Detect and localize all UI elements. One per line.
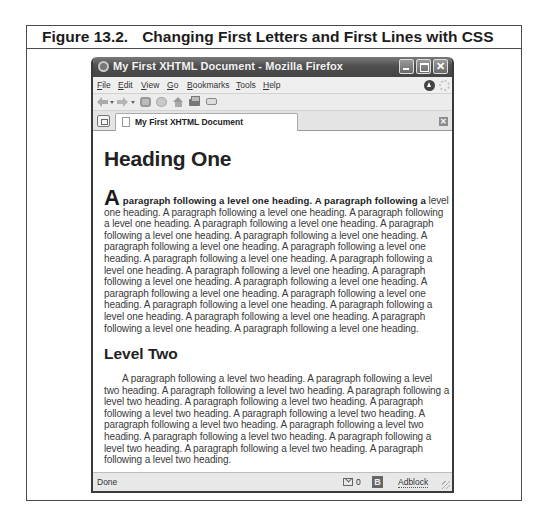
stop-icon[interactable]: [156, 97, 167, 107]
figure-number: Figure 13.2.: [42, 28, 128, 45]
title-bar[interactable]: My First XHTML Document - Mozilla Firefo…: [91, 57, 454, 77]
forward-icon[interactable]: [117, 97, 128, 107]
status-text: Done: [97, 477, 117, 487]
paragraph-body: level one heading. A paragraph following…: [104, 195, 449, 334]
minimize-button[interactable]: [399, 59, 414, 74]
menu-help[interactable]: Help: [263, 80, 280, 90]
firefox-icon: [98, 61, 109, 72]
addon-icon[interactable]: [424, 80, 435, 91]
extension-badge[interactable]: B: [372, 476, 383, 488]
close-button[interactable]: ✕: [433, 59, 448, 74]
reload-icon[interactable]: [140, 97, 151, 107]
paragraph-level-two: A paragraph following a level two headin…: [104, 373, 450, 466]
page-content: Heading One A paragraph following a leve…: [93, 131, 452, 472]
resize-grip[interactable]: [442, 481, 450, 489]
close-tab-button[interactable]: ✕: [439, 117, 448, 126]
adblock-link[interactable]: Adblock: [398, 477, 428, 488]
new-tab-button[interactable]: [97, 115, 110, 127]
first-line: A paragraph following a level one headin…: [104, 195, 426, 206]
paragraph-level-one: A paragraph following a level one headin…: [104, 191, 450, 334]
forward-dropdown-icon[interactable]: [131, 101, 135, 104]
print-icon[interactable]: [189, 99, 200, 106]
heading-one: Heading One: [104, 147, 231, 171]
figure-title: Changing First Letters and First Lines w…: [142, 28, 493, 45]
home-icon[interactable]: [173, 97, 184, 107]
heading-two: Level Two: [104, 345, 178, 363]
menu-edit[interactable]: Edit: [118, 80, 133, 90]
menu-bar: File Edit View Go Bookmarks Tools Help: [93, 77, 452, 94]
tab-bar: My First XHTML Document ✕: [93, 111, 452, 131]
throbber-icon: [439, 80, 450, 91]
tab-label: My First XHTML Document: [135, 117, 243, 127]
mail-count: 0: [356, 477, 361, 487]
menu-view[interactable]: View: [141, 80, 159, 90]
tab-my-first-xhtml-document[interactable]: My First XHTML Document: [115, 113, 298, 131]
send-page-icon[interactable]: [206, 98, 217, 105]
back-dropdown-icon[interactable]: [110, 101, 114, 104]
menu-bookmarks[interactable]: Bookmarks: [187, 80, 230, 90]
maximize-button[interactable]: [416, 59, 431, 74]
menu-go[interactable]: Go: [167, 80, 178, 90]
mail-icon[interactable]: [343, 478, 353, 486]
browser-window: My First XHTML Document - Mozilla Firefo…: [91, 57, 454, 493]
status-bar: Done 0 B Adblock: [93, 472, 452, 491]
menu-tools[interactable]: Tools: [236, 80, 256, 90]
page-icon: [122, 117, 130, 127]
menu-file[interactable]: File: [97, 80, 111, 90]
figure-caption: Figure 13.2.Changing First Letters and F…: [27, 26, 521, 49]
back-icon[interactable]: [97, 97, 108, 107]
navigation-toolbar: [93, 94, 452, 111]
window-title: My First XHTML Document - Mozilla Firefo…: [113, 60, 343, 72]
